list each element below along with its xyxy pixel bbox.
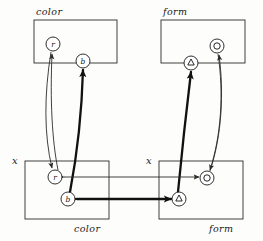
box-caption-bottom-color: color	[74, 223, 101, 234]
box-rect-bottom-color	[25, 161, 109, 219]
node-bot-b[interactable]: b	[61, 192, 75, 206]
box-var-bottom-form: x	[146, 155, 152, 166]
node-label-bot-r: r	[53, 173, 57, 182]
box-var-bottom-color: x	[12, 155, 18, 166]
node-circle-bot-circle	[200, 171, 214, 185]
box-label-top-form: form	[162, 6, 187, 17]
box-top-form: form	[161, 6, 245, 63]
node-label-top-b: b	[81, 57, 86, 66]
node-bot-triangle[interactable]	[172, 192, 186, 206]
node-label-top-r: r	[51, 40, 55, 49]
node-bot-circle[interactable]	[200, 171, 214, 185]
node-top-b[interactable]: b	[76, 54, 90, 68]
node-label-bot-b: b	[66, 195, 71, 204]
edge-bot-triangle-to-top-triangle	[178, 72, 191, 192]
node-top-triangle[interactable]	[184, 56, 198, 70]
node-top-circle[interactable]	[210, 39, 224, 53]
box-rect-bottom-form	[159, 161, 243, 219]
edge-bot-r-to-top-r	[51, 54, 58, 170]
box-caption-bottom-form: form	[208, 223, 233, 234]
box-rect-top-form	[161, 20, 245, 63]
edge-bot-b-to-top-b	[70, 70, 83, 192]
node-top-r[interactable]: r	[46, 37, 60, 51]
node-bot-r[interactable]: r	[48, 170, 62, 184]
node-circle-top-circle	[210, 39, 224, 53]
box-label-top-color: color	[36, 6, 63, 17]
box-top-color: color	[34, 6, 117, 63]
diagram-canvas: color form x color x form	[0, 0, 263, 241]
box-bottom-form: x form	[146, 155, 243, 234]
box-bottom-color: x color	[12, 155, 109, 234]
